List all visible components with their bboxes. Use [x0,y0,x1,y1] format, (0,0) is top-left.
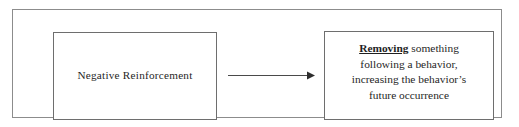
diagram-outer-frame: Negative Reinforcement Removing somethin… [12,9,502,118]
node-definition: Removing something following a behavior,… [324,31,494,120]
node-definition-line2: following a behavior, [360,58,457,70]
node-negative-reinforcement: Negative Reinforcement [53,32,217,120]
diagram-root: Negative Reinforcement Removing somethin… [0,0,519,127]
node-definition-text: Removing something following a behavior,… [346,41,472,104]
arrow-right-icon [227,67,317,83]
node-definition-line3: increasing the behavior’s [352,73,466,85]
node-negative-reinforcement-label: Negative Reinforcement [77,69,192,82]
node-definition-emphasis: Removing [359,42,408,54]
node-definition-line4: future occurrence [369,89,449,101]
node-definition-line1-rest: something [409,42,459,54]
